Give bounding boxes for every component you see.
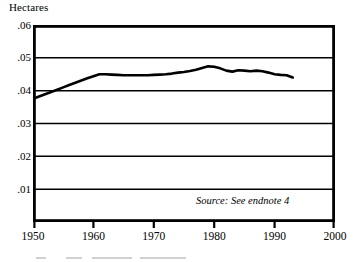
x-tick-label: 1980	[191, 230, 237, 242]
x-tick-label: 1970	[131, 230, 177, 242]
x-axis-tick-labels: 195019601970198019902000	[0, 0, 354, 262]
source-note: Source: See endnote 4	[196, 195, 289, 207]
x-tick-label: 1960	[70, 230, 116, 242]
caption-remnant	[36, 252, 226, 260]
x-tick-label: 1990	[252, 230, 298, 242]
x-tick-label: 2000	[312, 230, 354, 242]
figure-container: Hectares .01.02.03.04.05.06 195019601970…	[0, 0, 354, 262]
x-tick-label: 1950	[10, 230, 56, 242]
